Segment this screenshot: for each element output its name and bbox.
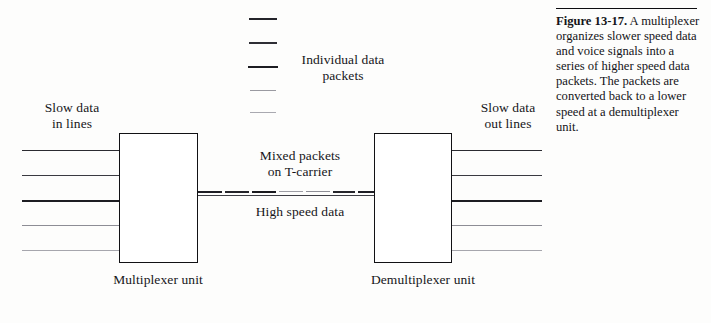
caption-figure-number: Figure 13-17.: [556, 14, 627, 28]
slow-data-out-line-2: [452, 175, 542, 176]
mixed-packets-label: Mixed packets on T-carrier: [230, 148, 370, 180]
individual-packets-label: Individual data packets: [278, 52, 408, 84]
slow-data-out-line-5: [452, 250, 542, 251]
t-carrier-packet-segment-6: [333, 191, 355, 193]
slow-data-in-line-1: [22, 150, 122, 151]
t-carrier-packet-segment-3: [252, 191, 276, 193]
slow-data-in-line-4: [22, 225, 122, 226]
individual-packet-dash-3: [248, 66, 278, 68]
slow-data-out-line-4: [452, 225, 542, 226]
caption-rule-divider: [556, 8, 697, 9]
slow-data-in-line-2: [22, 175, 122, 176]
multiplexer-unit-box[interactable]: [119, 133, 198, 263]
demultiplexer-unit-box[interactable]: [374, 133, 452, 263]
figure-canvas: Slow data in lines Multiplexer unit Indi…: [0, 0, 711, 323]
demultiplexer-unit-label: Demultiplexer unit: [343, 272, 503, 288]
t-carrier-packet-segment-1: [198, 191, 222, 193]
slow-data-in-line-5: [22, 250, 122, 251]
high-speed-data-label: High speed data: [230, 204, 370, 220]
t-carrier-packet-segment-5: [306, 191, 330, 192]
t-carrier-baseline: [198, 195, 374, 196]
t-carrier-trunk-line: [198, 191, 374, 197]
figure-caption-panel: Figure 13-17. A multiplexer organizes sl…: [556, 8, 701, 135]
individual-packet-dash-5: [250, 112, 276, 113]
multiplexer-unit-label: Multiplexer unit: [88, 272, 228, 288]
slow-data-in-label: Slow data in lines: [22, 100, 122, 132]
individual-packet-dash-4: [250, 90, 276, 91]
t-carrier-packet-segment-7: [358, 191, 374, 193]
slow-data-out-line-3: [452, 200, 542, 202]
t-carrier-packet-segment-4: [279, 191, 303, 192]
slow-data-in-line-3: [22, 200, 122, 202]
caption-body-text: A multiplexer organizes slower speed dat…: [556, 14, 699, 134]
t-carrier-packet-segment-2: [225, 191, 249, 193]
caption-text: Figure 13-17. A multiplexer organizes sl…: [556, 14, 701, 135]
slow-data-out-label: Slow data out lines: [458, 100, 558, 132]
slow-data-out-line-1: [452, 150, 542, 151]
individual-packet-dash-1: [249, 18, 277, 20]
individual-packet-dash-2: [249, 42, 277, 44]
